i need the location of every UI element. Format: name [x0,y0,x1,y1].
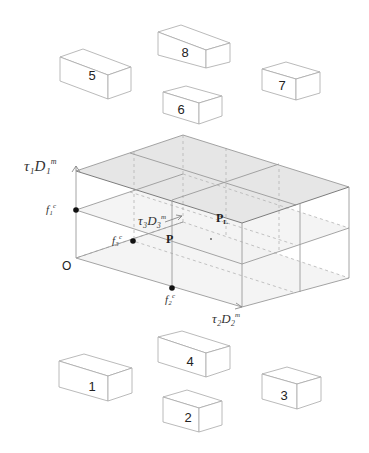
block-6: 6 [163,86,222,124]
point-f3 [130,238,136,244]
point-pl-marker [210,238,212,240]
block-label: 8 [181,45,188,60]
point-label-P: P [166,232,173,246]
block-1: 1 [59,354,132,401]
block-5: 5 [60,49,131,99]
point-label-f2: f₂c [165,292,176,305]
block-4: 4 [158,331,230,377]
block-label: 7 [278,78,285,93]
block-7: 7 [262,62,320,100]
block-8: 8 [158,25,230,68]
point-f2 [169,285,175,291]
main-subdivided-box [72,135,349,309]
axis-label-tau1-D1: τ₁D₁m [24,157,57,174]
origin-label: O [62,259,71,273]
block-label: 4 [186,354,193,369]
point-label-f1: f₁c [46,202,57,215]
subdivision-diagram: 5 8 6 7 [0,0,369,453]
block-3: 3 [262,367,321,409]
block-2: 2 [163,390,222,432]
block-label: 5 [88,68,95,83]
block-label: 6 [177,102,184,117]
axis-label-tau2-D2: τ₂D₂m [212,311,240,326]
block-label: 2 [184,410,191,425]
block-label: 3 [280,388,287,403]
point-f1 [73,207,79,213]
block-label: 1 [88,379,95,394]
